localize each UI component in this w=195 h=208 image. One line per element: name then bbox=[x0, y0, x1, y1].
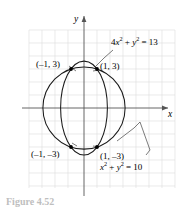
point-label-bottom-right: (1, –3) bbox=[100, 152, 124, 161]
equation-circle-plus: + bbox=[107, 162, 117, 172]
marker-bottom-right bbox=[95, 145, 99, 149]
y-axis-arrow bbox=[82, 16, 87, 22]
equation-circle-equals: = bbox=[124, 162, 134, 172]
equation-circle: x2 + y2 = 10 bbox=[100, 163, 142, 172]
figure-container: y x 4x2 + y2 = 13 x2 + y2 = 10 (–1, 3) (… bbox=[0, 0, 195, 208]
coordinate-plot bbox=[0, 0, 195, 208]
point-label-top-right: (1, 3) bbox=[100, 62, 120, 71]
equation-ellipse: 4x2 + y2 = 13 bbox=[111, 38, 158, 47]
equation-ellipse-equals: = bbox=[139, 37, 149, 47]
figure-caption: Figure 4.52 bbox=[6, 196, 54, 207]
equation-ellipse-rhs: 13 bbox=[149, 37, 158, 47]
leader-line-circle-lower bbox=[140, 122, 150, 155]
y-axis-label: y bbox=[74, 15, 78, 25]
marker-top-left bbox=[69, 67, 73, 71]
x-axis-label: x bbox=[168, 110, 172, 120]
equation-circle-rhs: 10 bbox=[133, 162, 142, 172]
equation-ellipse-plus: + bbox=[123, 37, 133, 47]
point-label-bottom-left: (–1, –3) bbox=[31, 150, 60, 159]
point-label-top-left: (–1, 3) bbox=[36, 60, 60, 69]
marker-bottom-left bbox=[69, 145, 73, 149]
leader-line-circle bbox=[117, 122, 140, 141]
marker-top-right bbox=[95, 67, 99, 71]
